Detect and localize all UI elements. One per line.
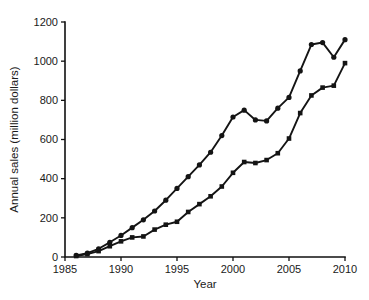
data-point-marker bbox=[253, 161, 258, 166]
data-point-marker bbox=[163, 198, 168, 203]
data-point-marker bbox=[85, 252, 90, 257]
y-tick-label: 400 bbox=[40, 172, 58, 184]
series-line-lower-series bbox=[76, 63, 345, 256]
data-point-marker bbox=[74, 254, 79, 259]
series-line-upper-series bbox=[76, 40, 345, 256]
x-axis-title: Year bbox=[193, 278, 216, 290]
data-point-marker bbox=[186, 210, 191, 215]
data-point-marker bbox=[130, 235, 135, 240]
data-point-marker bbox=[320, 40, 325, 45]
data-point-marker bbox=[208, 150, 213, 155]
data-point-marker bbox=[298, 111, 303, 116]
data-point-marker bbox=[208, 194, 213, 199]
data-point-marker bbox=[152, 227, 157, 232]
y-tick-label: 1000 bbox=[34, 55, 58, 67]
y-tick-label: 0 bbox=[52, 251, 58, 263]
data-point-marker bbox=[253, 117, 258, 122]
data-point-marker bbox=[130, 225, 135, 230]
data-point-marker bbox=[152, 208, 157, 213]
data-point-marker bbox=[164, 222, 169, 227]
x-tick-label: 1995 bbox=[165, 263, 189, 275]
y-axis-title: Annual sales (million dollars) bbox=[8, 66, 20, 213]
x-tick-label: 1985 bbox=[53, 263, 77, 275]
data-point-marker bbox=[242, 108, 247, 113]
data-point-marker bbox=[186, 174, 191, 179]
x-tick-label: 1990 bbox=[109, 263, 133, 275]
data-point-marker bbox=[230, 114, 235, 119]
data-point-marker bbox=[197, 162, 202, 167]
chart-figure: 0200400600800100012001985199019952000200… bbox=[0, 0, 369, 300]
data-point-marker bbox=[264, 158, 269, 163]
line-chart: 0200400600800100012001985199019952000200… bbox=[0, 0, 369, 300]
data-point-marker bbox=[287, 136, 292, 141]
data-point-marker bbox=[96, 249, 101, 254]
data-point-marker bbox=[286, 95, 291, 100]
data-point-marker bbox=[197, 202, 202, 207]
data-point-marker bbox=[320, 85, 325, 90]
data-point-marker bbox=[119, 239, 124, 244]
x-tick-label: 2005 bbox=[277, 263, 301, 275]
data-point-marker bbox=[342, 37, 347, 42]
data-point-marker bbox=[141, 217, 146, 222]
data-point-marker bbox=[118, 233, 123, 238]
data-point-marker bbox=[220, 184, 225, 189]
data-point-marker bbox=[332, 83, 337, 88]
data-point-marker bbox=[309, 42, 314, 47]
data-point-marker bbox=[231, 170, 236, 175]
data-point-marker bbox=[141, 234, 146, 239]
data-point-marker bbox=[242, 160, 247, 165]
data-point-marker bbox=[219, 133, 224, 138]
data-point-marker bbox=[175, 219, 180, 224]
x-tick-label: 2000 bbox=[221, 263, 245, 275]
data-point-marker bbox=[275, 106, 280, 111]
y-tick-label: 1200 bbox=[34, 16, 58, 28]
data-point-marker bbox=[343, 61, 348, 66]
y-tick-label: 600 bbox=[40, 133, 58, 145]
data-point-marker bbox=[174, 186, 179, 191]
data-point-marker bbox=[264, 118, 269, 123]
data-point-marker bbox=[108, 244, 113, 249]
y-tick-label: 200 bbox=[40, 212, 58, 224]
x-tick-label: 2010 bbox=[333, 263, 357, 275]
y-tick-label: 800 bbox=[40, 94, 58, 106]
data-point-marker bbox=[331, 55, 336, 60]
data-point-marker bbox=[298, 68, 303, 73]
data-point-marker bbox=[276, 151, 281, 156]
axis-lines bbox=[65, 22, 345, 257]
data-point-marker bbox=[309, 93, 314, 98]
